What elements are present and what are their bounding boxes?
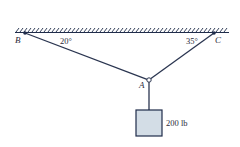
label-C: C bbox=[215, 35, 222, 45]
angle-B-label: 20° bbox=[60, 36, 72, 46]
label-A: A bbox=[138, 80, 145, 90]
pin-B bbox=[23, 31, 27, 35]
load-box bbox=[136, 110, 162, 136]
statics-diagram: B C A 20° 35° 200 lb bbox=[0, 0, 240, 147]
cable-AC bbox=[151, 33, 214, 79]
label-B: B bbox=[15, 35, 21, 45]
ceiling-hatching bbox=[16, 28, 227, 32]
load-weight-label: 200 lb bbox=[166, 118, 188, 128]
ceiling-support bbox=[15, 28, 229, 33]
ring-A bbox=[147, 78, 151, 82]
angle-C-label: 35° bbox=[186, 36, 198, 46]
cable-AB bbox=[25, 33, 147, 79]
